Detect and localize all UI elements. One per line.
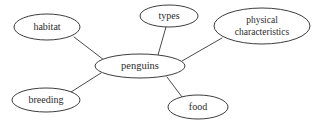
node-types[interactable]: types [140, 5, 198, 27]
edge-breeding-penguins [71, 73, 101, 92]
node-habitat[interactable]: habitat [14, 14, 80, 40]
mind-map-canvas: habitat types physical characteristics b… [0, 0, 313, 125]
edge-physical-characteristics-penguins [182, 38, 222, 61]
node-physical-characteristics-label-line1: physical [246, 15, 278, 25]
edge-types-penguins [158, 27, 166, 55]
node-breeding-label: breeding [29, 94, 64, 105]
node-penguins-label: penguins [121, 60, 159, 71]
edge-habitat-penguins [74, 37, 104, 60]
node-breeding[interactable]: breeding [12, 88, 80, 112]
node-habitat-label: habitat [33, 21, 60, 32]
edge-food-penguins [167, 77, 182, 97]
node-physical-characteristics-label-line2: characteristics [235, 27, 290, 37]
node-physical-characteristics-shape [214, 8, 310, 44]
node-types-label: types [158, 10, 179, 21]
node-physical-characteristics[interactable]: physical characteristics [214, 8, 310, 44]
mind-map-diagram: habitat types physical characteristics b… [0, 0, 313, 125]
node-penguins-center[interactable]: penguins [95, 54, 185, 78]
node-food[interactable]: food [168, 95, 228, 119]
node-food-label: food [189, 101, 207, 112]
